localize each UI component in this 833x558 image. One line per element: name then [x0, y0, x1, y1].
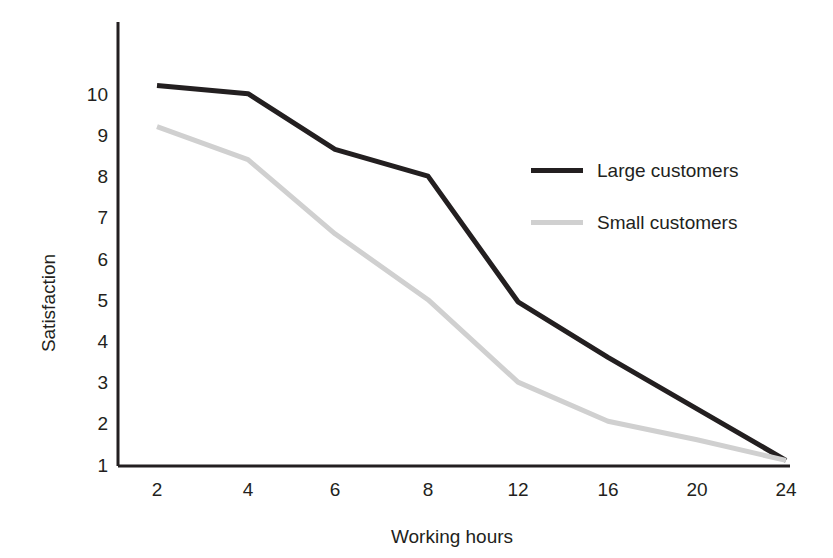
legend-label: Large customers: [597, 161, 739, 180]
x-axis-title: Working hours: [391, 527, 513, 546]
x-tick-label: 24: [775, 480, 796, 499]
legend-line-swatch-icon: [531, 220, 583, 225]
y-tick-label: 1: [97, 455, 108, 474]
x-tick-label: 6: [330, 480, 341, 499]
x-tick-label: 16: [597, 480, 618, 499]
x-tick-label: 12: [507, 480, 528, 499]
x-tick-label: 4: [243, 480, 254, 499]
y-axis-title: Satisfaction: [39, 254, 58, 352]
legend-item-large-customers: Large customers: [531, 161, 739, 180]
y-tick-label: 2: [97, 414, 108, 433]
x-tick-label: 8: [423, 480, 434, 499]
y-tick-label: 7: [97, 208, 108, 227]
legend-line-swatch-icon: [531, 168, 583, 173]
plot-area: [0, 0, 833, 558]
chart-figure: 10987654321 246812162024 Satisfaction Wo…: [0, 0, 833, 558]
y-tick-label: 8: [97, 167, 108, 186]
legend-label: Small customers: [597, 213, 737, 232]
legend-item-small-customers: Small customers: [531, 213, 737, 232]
y-tick-label: 5: [97, 290, 108, 309]
series-paths: [157, 86, 786, 461]
y-tick-label: 10: [87, 84, 108, 103]
y-tick-label: 3: [97, 373, 108, 392]
y-tick-label: 4: [97, 331, 108, 350]
y-tick-label: 9: [97, 125, 108, 144]
x-tick-label: 20: [686, 480, 707, 499]
x-tick-label: 2: [152, 480, 163, 499]
y-tick-label: 6: [97, 249, 108, 268]
series-line-large-customers: [157, 86, 786, 461]
